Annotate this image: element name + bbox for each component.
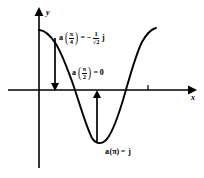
annot1-value-fraction: 1 √2 [92, 31, 101, 46]
annot2-equals: = [94, 69, 99, 77]
annot1-close-paren: ) [75, 31, 78, 44]
annotation-a-pi-over-4: a ( π 4 ) = − 1 √2 j [59, 31, 105, 46]
annot1-argument-fraction: π 4 [69, 31, 75, 46]
annot3-equals: = [121, 148, 126, 156]
annot2-close-paren: ) [88, 66, 91, 79]
annotation-a-pi: a ( π ) = j [105, 148, 131, 156]
annot3-value: j [128, 148, 131, 156]
annot2-argument-fraction: π 2 [82, 66, 88, 81]
annot1-minus-sign: − [87, 34, 92, 42]
annot1-unit-j: j [102, 34, 105, 42]
y-axis-label: y [46, 9, 50, 17]
annot2-open-paren: ( [77, 66, 80, 79]
annotation-a-pi-over-2: a ( π 2 ) = 0 [72, 66, 104, 81]
plot-canvas [0, 0, 204, 178]
x-axis-label: x [191, 94, 195, 102]
annot1-function-name: a [59, 34, 63, 42]
annot3-function-name: a [105, 148, 109, 156]
annot2-arg-denominator: 2 [82, 74, 87, 81]
annot2-function-name: a [72, 69, 76, 77]
annot3-close-paren: ) [117, 148, 120, 156]
annot1-value-denominator: √2 [92, 39, 101, 46]
math-figure: y x a ( π 4 ) = − 1 √2 j a ( π 2 ) = 0 a… [0, 0, 204, 178]
annot1-open-paren: ( [64, 31, 67, 44]
annot2-value: 0 [100, 69, 104, 77]
annot1-equals: = [81, 34, 86, 42]
y-axis-arrowhead [35, 7, 44, 16]
annot1-arg-denominator: 4 [69, 39, 74, 46]
arrow-pi-head [93, 90, 101, 98]
